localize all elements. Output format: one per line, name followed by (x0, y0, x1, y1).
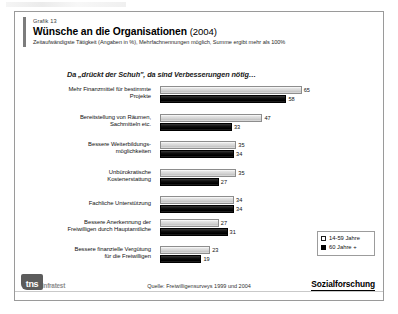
bar-value-label: 47 (262, 114, 270, 122)
bar-value-label: 31 (228, 228, 236, 236)
legend-swatch-icon (321, 245, 326, 250)
category-label-line: Unbürokratische (23, 169, 151, 176)
bar-age-14-59 (160, 196, 234, 204)
category-label: Bessere Weiterbildungs-möglichkeiten (23, 141, 151, 156)
logo-mark: tns (21, 274, 43, 290)
bar-group: Mehr Finanzmittel für bestimmteProjekte6… (23, 86, 375, 108)
bar-pair: 3527 (160, 169, 375, 191)
slide-header: Grafik 13 Wünsche an die Organisationen … (23, 17, 375, 47)
bar-age-60-plus (160, 123, 232, 131)
category-label: UnbürokratischeKostenerstattung (23, 169, 151, 184)
category-label-line: Sachmitteln etc. (23, 121, 151, 128)
bar-age-60-plus (160, 255, 201, 263)
category-label-line: Bessere Weiterbildungs- (23, 141, 151, 148)
bar-pair: 3534 (160, 141, 375, 163)
bar-age-60-plus (160, 178, 219, 186)
bar-age-14-59 (160, 114, 262, 122)
category-label-line: Bessere finanzielle Vergütung (23, 246, 151, 253)
category-label: Fachliche Unterstützung (23, 200, 151, 207)
category-label-line: Kostenerstattung (23, 176, 151, 183)
bar-value-label: 27 (219, 219, 227, 227)
chart-slide-page: Grafik 13 Wünsche an die Organisationen … (0, 0, 398, 314)
legend-item[interactable]: 14-59 Jahre (321, 234, 370, 243)
bar-age-60-plus (160, 95, 286, 103)
slide-footer: tns infratest Quelle: Freiwilligensurvey… (15, 264, 383, 300)
bar-value-label: 34 (234, 196, 242, 204)
bar-age-60-plus (160, 205, 234, 213)
bar-group: UnbürokratischeKostenerstattung3527 (23, 169, 375, 191)
bar-pair: 4733 (160, 114, 375, 136)
bar-value-label: 35 (236, 169, 244, 177)
bar-age-14-59 (160, 169, 236, 177)
bar-value-label: 19 (201, 255, 209, 263)
bar-value-label: 33 (232, 123, 240, 131)
intro-statement: Da „drückt der Schuh", da sind Verbesser… (67, 70, 256, 79)
bar-value-label: 34 (234, 205, 242, 213)
page-subtitle: Zeitaufwändigste Tätigkeit (Angaben in %… (33, 38, 375, 47)
bar-value-label: 35 (236, 141, 244, 149)
category-label-line: Bessere Anerkennung der (23, 219, 151, 226)
category-label-line: Fachliche Unterstützung (23, 200, 151, 207)
legend-label: 14-59 Jahre (329, 234, 360, 243)
category-label-line: Bereitstellung von Räumen, (23, 114, 151, 121)
bar-pair: 6558 (160, 86, 375, 108)
bar-pair: 3434 (160, 196, 375, 218)
bar-value-label: 65 (302, 86, 310, 94)
category-label-line: Projekte (23, 93, 151, 100)
scan-artifact (6, 2, 126, 7)
category-label-line: Mehr Finanzmittel für bestimmte (23, 86, 151, 93)
brand-label: Sozialforschung (311, 279, 375, 291)
category-label-line: für die Freiwilligen (23, 253, 151, 260)
category-label: Bereitstellung von Räumen,Sachmitteln et… (23, 114, 151, 129)
bar-group: Bereitstellung von Räumen,Sachmitteln et… (23, 114, 375, 136)
bar-age-60-plus (160, 150, 234, 158)
bar-age-60-plus (160, 228, 228, 236)
category-label-line: Freiwilligen durch Hauptamtliche (23, 226, 151, 233)
legend-label: 60 Jahre + (329, 243, 357, 252)
bar-value-label: 34 (234, 150, 242, 158)
page-title-year: (2004) (190, 26, 217, 37)
tns-infratest-logo: tns infratest (21, 274, 65, 290)
bar-age-14-59 (160, 219, 219, 227)
footer-divider (15, 291, 383, 292)
bar-age-14-59 (160, 246, 210, 254)
category-label-line: möglichkeiten (23, 148, 151, 155)
graphic-number: Grafik 13 (33, 17, 375, 25)
page-title: Wünsche an die Organisationen (2004) (33, 25, 375, 38)
page-title-text: Wünsche an die Organisationen (33, 26, 187, 37)
bar-age-14-59 (160, 141, 236, 149)
bar-age-14-59 (160, 86, 302, 94)
legend-item[interactable]: 60 Jahre + (321, 243, 370, 252)
slide-frame: Grafik 13 Wünsche an die Organisationen … (14, 11, 384, 301)
bar-group: Fachliche Unterstützung3434 (23, 196, 375, 218)
source-note: Quelle: Freiwilligensurveys 1999 und 200… (147, 283, 251, 289)
bar-value-label: 27 (219, 178, 227, 186)
logo-wordmark: infratest (42, 282, 65, 290)
category-label: Bessere Anerkennung derFreiwilligen durc… (23, 219, 151, 234)
category-label: Bessere finanzielle Vergütungfür die Fre… (23, 246, 151, 261)
chart-legend: 14-59 Jahre60 Jahre + (317, 231, 375, 256)
bar-value-label: 23 (210, 246, 218, 254)
category-label: Mehr Finanzmittel für bestimmteProjekte (23, 86, 151, 101)
bar-value-label: 58 (286, 95, 294, 103)
bar-group: Bessere Weiterbildungs-möglichkeiten3534 (23, 141, 375, 163)
legend-swatch-icon (321, 236, 326, 241)
